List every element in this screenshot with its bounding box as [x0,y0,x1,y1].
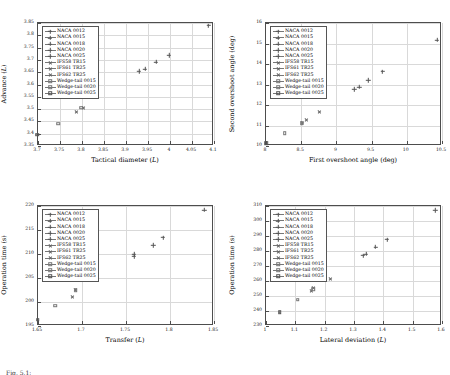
gridline-y [266,206,440,207]
legend-marker [273,243,284,249]
legend-marker [273,230,284,236]
legend-label: NACA 0018 [285,225,313,230]
x-tick-label: 1.1 [291,328,298,333]
x-tick-label: 1.2 [320,328,327,333]
y-axis-title: Operation time (s) [229,235,235,294]
x-tick-label: 1.3 [349,328,356,333]
x-tick [383,321,384,324]
legend-label: NACA 0012 [285,212,313,217]
data-point [433,208,437,212]
y-tick [266,206,269,207]
y-tick [266,281,269,282]
x-axis-title: Lateral deviation (L) [320,337,387,343]
y-tick-label: 280 [243,248,262,253]
legend-marker [273,218,284,224]
legend-label: IFS61 TR25 [285,249,313,254]
x-tick [295,321,296,324]
x-tick [325,321,326,324]
legend-marker [273,224,284,230]
gridline-y [266,311,440,312]
x-tick-label: 1.6 [437,328,444,333]
data-point [385,237,389,241]
legend-marker [273,249,284,255]
x-tick [354,321,355,324]
legend-label: IFS62 TR25 [285,256,313,261]
legend-label: Wedge-tail 0020 [285,268,324,273]
y-tick [266,236,269,237]
legend-symbol [276,243,280,247]
legend-symbol [276,225,280,229]
x-tick-label: 1 [264,328,267,333]
y-tick [266,251,269,252]
data-point [296,298,300,302]
data-point [311,287,315,291]
gridline-x [413,206,414,324]
figure-panel: 3.73.753.83.853.93.9544.054.13.353.43.45… [0,0,450,375]
x-tick-label: 1.4 [379,328,386,333]
legend-label: NACA 0015 [285,218,313,223]
y-tick-label: 260 [243,278,262,283]
legend-operation-time-vs-lateral-deviation: NACA 0012NACA 0015NACA 0018NACA 0020NACA… [270,209,327,282]
legend-marker [273,212,284,218]
legend-marker [273,236,284,242]
legend-marker [273,261,284,267]
legend-symbol [276,262,280,266]
legend-label: Wedge-tail 0025 [285,274,324,279]
legend-symbol [276,237,280,241]
legend-symbol [276,231,280,235]
y-tick-label: 240 [243,308,262,313]
figure-caption: Fig. 5.1: [6,369,31,375]
legend-label: NACA 0025 [285,237,313,242]
legend-item-wedge-tail-0025[interactable]: Wedge-tail 0025 [273,273,324,279]
x-tick [413,321,414,324]
gridline-x [354,206,355,324]
gridline-y [266,296,440,297]
y-tick-label: 230 [243,323,262,328]
gridline-x [383,206,384,324]
legend-label: NACA 0020 [285,231,313,236]
chart-panel-operation-time-vs-lateral-deviation: 11.11.21.31.41.51.6230240250260270280290… [0,0,450,375]
legend-symbol [276,268,280,272]
legend-symbol [276,275,280,279]
x-tick-label: 1.5 [408,328,415,333]
y-tick-label: 300 [243,218,262,223]
legend-marker [273,255,284,261]
x-tick [266,321,267,324]
gridline-x [442,206,443,324]
data-point [373,245,377,249]
data-point [361,253,365,257]
y-tick [266,311,269,312]
y-tick-label: 290 [243,233,262,238]
data-point [328,276,332,280]
y-tick [266,296,269,297]
legend-marker [273,273,284,279]
y-tick [266,266,269,267]
data-point [278,310,282,314]
legend-marker [273,267,284,273]
legend-label: IFS58 TR15 [285,243,313,248]
legend-symbol [276,219,280,223]
x-tick [442,321,443,324]
legend-symbol [276,250,280,254]
y-tick-label: 270 [243,263,262,268]
y-tick [266,221,269,222]
legend-label: Wedge-tail 0015 [285,262,324,267]
legend-symbol [276,212,280,216]
y-tick-label: 310 [243,203,262,208]
legend-symbol [276,256,280,260]
y-tick-label: 250 [243,293,262,298]
